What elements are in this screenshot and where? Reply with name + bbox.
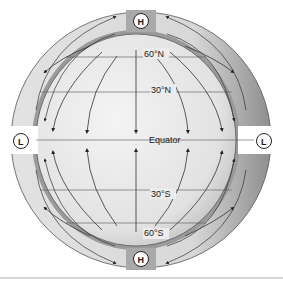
label-30n: 30°N bbox=[151, 85, 171, 95]
svg-text:H: H bbox=[138, 17, 145, 27]
label-60n: 60°N bbox=[144, 49, 164, 59]
circulation-diagram: 60°N 30°N Equator 30°S 60°S H H L L bbox=[0, 0, 283, 284]
pressure-marker-south-high: H bbox=[134, 252, 149, 267]
label-30s: 30°S bbox=[151, 189, 171, 199]
svg-text:H: H bbox=[138, 255, 145, 265]
pressure-marker-left-low: L bbox=[14, 134, 29, 149]
svg-text:L: L bbox=[18, 137, 24, 147]
label-60s: 60°S bbox=[144, 228, 164, 238]
label-equator: Equator bbox=[149, 135, 181, 145]
svg-text:L: L bbox=[261, 137, 267, 147]
pressure-marker-north-high: H bbox=[134, 14, 149, 29]
pressure-marker-right-low: L bbox=[257, 134, 272, 149]
